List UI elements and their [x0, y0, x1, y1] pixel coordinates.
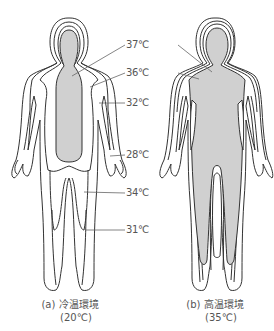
caption-b-title: (b) 高温環境	[178, 299, 252, 312]
isotherm-label-31: 31℃	[126, 225, 149, 235]
isotherm-label-28: 28℃	[126, 150, 149, 160]
caption-a: (a) 冷温環境 (20℃)	[33, 299, 107, 324]
isotherm-label-37: 37℃	[126, 40, 149, 50]
isotherm-label-34: 34℃	[126, 188, 149, 198]
figure-a-core	[56, 30, 82, 162]
caption-b-temp: (35℃)	[178, 312, 252, 325]
isotherm-label-36: 36℃	[126, 68, 149, 78]
caption-a-temp: (20℃)	[33, 312, 107, 325]
isotherm-label-32: 32℃	[126, 98, 149, 108]
caption-a-title: (a) 冷温環境	[33, 299, 107, 312]
caption-b: (b) 高温環境 (35℃)	[178, 299, 252, 324]
